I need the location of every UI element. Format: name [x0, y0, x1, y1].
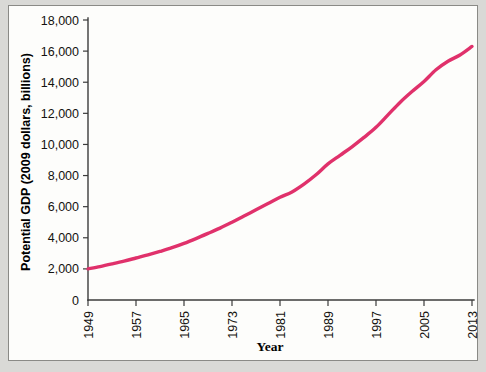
- y-axis-tick-label: 4,000: [48, 231, 79, 245]
- y-axis-tick-group: 02,0004,0006,0008,00010,00012,00014,0001…: [41, 14, 88, 308]
- chart-plot: 02,0004,0006,0008,00010,00012,00014,0001…: [0, 0, 486, 372]
- y-axis-tick-label: 12,000: [41, 107, 79, 121]
- x-axis-tick-label: 1965: [178, 311, 192, 339]
- y-axis-tick-label: 2,000: [48, 262, 79, 276]
- y-axis-tick-label: 14,000: [41, 76, 79, 90]
- y-axis-tick-label: 8,000: [48, 169, 79, 183]
- y-axis-tick-label: 6,000: [48, 200, 79, 214]
- x-axis-tick-label: 1957: [130, 311, 144, 339]
- y-axis-tick-label: 10,000: [41, 138, 79, 152]
- x-axis-tick-label: 1949: [82, 311, 96, 339]
- x-axis-tick-group: 194919571965197319811989199720052013: [82, 300, 480, 339]
- x-axis-tick-label: 1989: [322, 311, 336, 339]
- potential-gdp-line: [88, 46, 472, 268]
- x-axis-title: Year: [257, 339, 284, 354]
- x-axis-tick-label: 1973: [226, 311, 240, 339]
- x-axis-tick-label: 2005: [418, 311, 432, 339]
- y-axis-tick-label: 18,000: [41, 14, 79, 28]
- x-axis-tick-label: 1981: [274, 311, 288, 339]
- x-axis-tick-label: 1997: [370, 311, 384, 339]
- figure-root: 02,0004,0006,0008,00010,00012,00014,0001…: [0, 0, 486, 372]
- y-axis-tick-label: 16,000: [41, 45, 79, 59]
- y-axis-title: Potential GDP (2009 dollars, billions): [19, 53, 33, 271]
- x-axis-tick-label: 2013: [466, 311, 480, 339]
- y-axis-tick-label: 0: [72, 294, 79, 308]
